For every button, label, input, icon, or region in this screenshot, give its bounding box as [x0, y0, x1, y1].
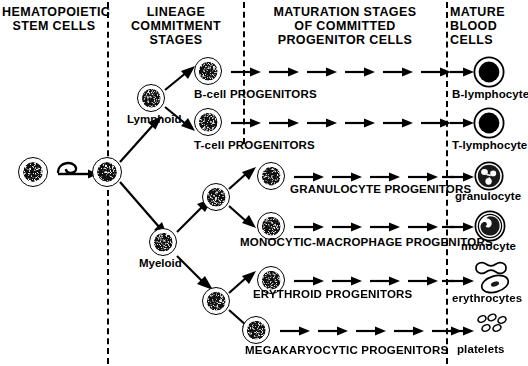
maturation-arrows-monocyte	[292, 217, 454, 237]
column-header-stem-cells: HEMATOPOIETIC STEM CELLS	[2, 5, 106, 33]
erythrocytes-label: erythrocytes	[452, 292, 522, 304]
b-lymphocyte-label: B-lymphocyte	[452, 88, 528, 100]
lymphocyte-cell-icon	[473, 56, 505, 88]
b-cell-progenitors-label: B-cell PROGENITORS	[194, 88, 317, 100]
granulocyte-label: granulocyte	[455, 190, 521, 202]
hematopoietic-stem-cell	[18, 157, 48, 187]
monocyte-cell-icon	[474, 210, 506, 242]
b-cell-progenitor-cell	[194, 57, 222, 85]
lymphocyte-cell-icon	[473, 107, 505, 139]
t-lymphocyte-label: T-lymphocyte	[452, 139, 527, 151]
maturation-arrows-granulocyte	[292, 167, 454, 187]
monocytic-macrophage-progenitors-label: MONOCYTIC-MACROPHAGE PROGENITORS	[240, 236, 493, 248]
lymphoid-progenitor-cell	[137, 84, 165, 112]
megakaryocytic-progenitors-label: MEGAKARYOCYTIC PROGENITORS	[245, 344, 448, 356]
platelets-label: platelets	[457, 343, 505, 355]
column-header-lineage-commitment: LINEAGE COMMITMENT STAGES	[112, 5, 240, 47]
maturation-arrows-t-cell	[229, 113, 455, 133]
granulocyte-progenitor-cell	[257, 162, 285, 190]
column-header-maturation-stages: MATURATION STAGES OF COMMITTED PROGENITO…	[248, 5, 442, 47]
hematopoiesis-diagram: HEMATOPOIETIC STEM CELLS LINEAGE COMMITM…	[0, 0, 528, 366]
megakaryocytic-progenitor-cell	[242, 316, 270, 344]
granulocyte-monocyte-progenitor-cell	[202, 183, 230, 211]
column-header-mature-blood-cells: MATURE BLOOD CELLS	[450, 5, 526, 47]
maturation-arrows-megakaryocyte	[278, 321, 460, 341]
myeloid-progenitor-cell	[149, 228, 177, 256]
platelet-icon	[474, 312, 514, 340]
monocyte-label: monocyte	[461, 240, 516, 252]
maturation-arrows-erythroid	[292, 271, 454, 291]
t-cell-progenitor-cell	[194, 108, 222, 136]
granulocyte-cell-icon	[474, 161, 504, 191]
maturation-arrows-b-cell	[229, 62, 455, 82]
erythroid-megakaryocyte-progenitor-cell	[202, 287, 230, 315]
t-cell-progenitors-label: T-cell PROGENITORS	[194, 139, 315, 151]
